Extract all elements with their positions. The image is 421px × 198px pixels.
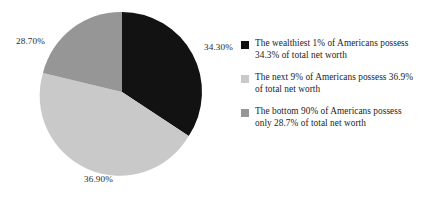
slice-label-bottom-90-percent: 28.70% xyxy=(16,36,45,46)
legend-label-next-9-percent: The next 9% of Americans possess 36.9% o… xyxy=(255,72,417,95)
pie-plot-area: 34.30% 36.90% 28.70% xyxy=(0,0,232,198)
legend-item-bottom-90-percent: The bottom 90% of Americans possess only… xyxy=(241,106,417,129)
slice-label-wealthiest-1-percent: 34.30% xyxy=(204,42,233,52)
legend-swatch-icon-wealthiest-1-percent xyxy=(241,41,249,49)
slice-label-next-9-percent: 36.90% xyxy=(84,174,113,184)
legend-item-next-9-percent: The next 9% of Americans possess 36.9% o… xyxy=(241,72,417,95)
pie-chart-figure: 34.30% 36.90% 28.70% The wealthiest 1% o… xyxy=(0,0,421,198)
legend-swatch-icon-bottom-90-percent xyxy=(241,109,249,117)
legend-label-wealthiest-1-percent: The wealthiest 1% of Americans possess 3… xyxy=(255,38,417,61)
pie-svg xyxy=(0,0,232,198)
chart-legend: The wealthiest 1% of Americans possess 3… xyxy=(241,38,417,141)
legend-label-bottom-90-percent: The bottom 90% of Americans possess only… xyxy=(255,106,417,129)
legend-item-wealthiest-1-percent: The wealthiest 1% of Americans possess 3… xyxy=(241,38,417,61)
legend-swatch-icon-next-9-percent xyxy=(241,75,249,83)
